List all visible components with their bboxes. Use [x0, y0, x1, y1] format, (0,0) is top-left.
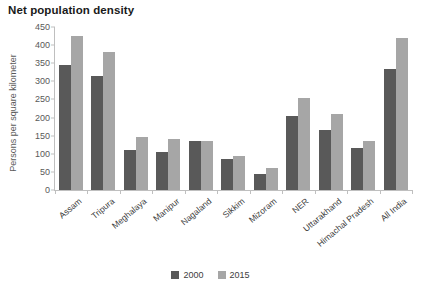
- bar-2015-sikkim[interactable]: [233, 156, 245, 190]
- bar-group: [152, 27, 184, 190]
- bar-group: [120, 27, 152, 190]
- x-axis-tick-mark: [120, 190, 121, 194]
- bar-2000-sikkim[interactable]: [221, 159, 233, 190]
- legend-swatch-icon: [218, 271, 226, 279]
- x-axis-tick-mark: [185, 190, 186, 194]
- bar-2000-ner[interactable]: [286, 116, 298, 190]
- bar-2015-nagaland[interactable]: [201, 141, 213, 190]
- bar-2015-assam[interactable]: [71, 36, 83, 190]
- x-axis-tick-mark: [412, 190, 413, 194]
- x-axis-label-assam: Assam: [57, 196, 84, 221]
- x-axis-tick-mark: [55, 190, 56, 194]
- x-axis-tick-mark: [250, 190, 251, 194]
- bar-2015-uttarakhand[interactable]: [331, 114, 343, 190]
- bar-2000-mizoram[interactable]: [254, 174, 266, 190]
- bar-2015-meghalaya[interactable]: [136, 137, 148, 190]
- bar-2015-ner[interactable]: [298, 98, 310, 190]
- bar-2000-nagaland[interactable]: [189, 141, 201, 190]
- x-axis-label-nagaland: Nagaland: [179, 196, 214, 227]
- chart-container: Net population density Persons per squar…: [0, 0, 421, 294]
- plot-area: 050100150200250300350400450: [55, 27, 412, 190]
- x-axis-label-ner: NER: [290, 196, 310, 215]
- legend-item-2000[interactable]: 2000: [171, 270, 203, 280]
- bar-2000-manipur[interactable]: [156, 152, 168, 190]
- chart-title: Net population density: [8, 4, 134, 16]
- legend-item-2015[interactable]: 2015: [218, 270, 250, 280]
- x-axis-tick-mark: [152, 190, 153, 194]
- bar-group: [55, 27, 87, 190]
- bar-2015-all-india[interactable]: [396, 38, 408, 190]
- x-axis-tick-mark: [87, 190, 88, 194]
- bar-group: [87, 27, 119, 190]
- bar-group: [347, 27, 379, 190]
- x-axis-line: [54, 190, 412, 191]
- bar-group: [250, 27, 282, 190]
- bar-group: [315, 27, 347, 190]
- bar-2015-himachal-pradesh[interactable]: [363, 141, 375, 190]
- bar-2015-mizoram[interactable]: [266, 168, 278, 190]
- x-axis-tick-mark: [217, 190, 218, 194]
- x-axis-tick-mark: [380, 190, 381, 194]
- legend-swatch-icon: [171, 271, 179, 279]
- bar-2000-himachal-pradesh[interactable]: [351, 148, 363, 190]
- bar-group: [282, 27, 314, 190]
- x-axis-tick-mark: [282, 190, 283, 194]
- x-axis-label-sikkim: Sikkim: [220, 196, 246, 220]
- bar-2000-uttarakhand[interactable]: [319, 130, 331, 190]
- x-axis-label-meghalaya: Meghalaya: [110, 196, 149, 231]
- x-axis-label-manipur: Manipur: [151, 196, 181, 224]
- bar-group: [185, 27, 217, 190]
- x-axis-label-tripura: Tripura: [89, 196, 116, 221]
- bar-2015-manipur[interactable]: [168, 139, 180, 190]
- x-axis-tick-mark: [347, 190, 348, 194]
- x-axis-tick-mark: [315, 190, 316, 194]
- bar-2000-meghalaya[interactable]: [124, 150, 136, 190]
- bar-group: [217, 27, 249, 190]
- y-axis-title: Persons per square kilometer: [8, 38, 18, 188]
- bar-group: [380, 27, 412, 190]
- x-axis-label-all-india: All India: [378, 196, 408, 223]
- bar-2000-tripura[interactable]: [91, 76, 103, 190]
- bar-2000-assam[interactable]: [59, 65, 71, 190]
- chart-legend: 20002015: [0, 270, 421, 280]
- x-axis-label-himachal-pradesh: Himachal Pradesh: [316, 196, 376, 249]
- bar-2015-tripura[interactable]: [103, 52, 115, 190]
- legend-label: 2015: [230, 270, 250, 280]
- legend-label: 2000: [183, 270, 203, 280]
- x-axis-label-mizoram: Mizoram: [247, 196, 279, 225]
- bar-2000-all-india[interactable]: [384, 69, 396, 190]
